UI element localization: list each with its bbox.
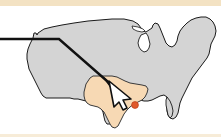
us-map-graphic <box>0 0 221 137</box>
location-marker-dot[interactable] <box>132 102 139 109</box>
map-figure <box>0 0 221 137</box>
